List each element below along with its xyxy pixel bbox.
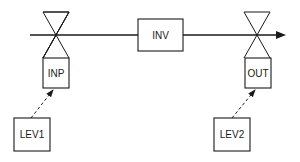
inp-label: INP — [48, 68, 65, 79]
inv-label: INV — [152, 30, 169, 41]
out-label: OUT — [247, 68, 268, 79]
lev2-label: LEV2 — [220, 129, 245, 140]
lev1-label: LEV1 — [20, 129, 45, 140]
inv-box[interactable]: INV — [138, 19, 183, 51]
lev2-to-out-signal — [232, 90, 255, 118]
flow-arrowhead-icon — [276, 31, 286, 39]
out-box[interactable]: OUT — [245, 58, 271, 88]
process-diagram: INP INV OUT LEV1 LEV2 — [0, 0, 300, 162]
lev2-box[interactable]: LEV2 — [214, 118, 250, 151]
inp-box[interactable]: INP — [43, 58, 69, 88]
lev1-to-inp-signal — [31, 90, 53, 118]
lev1-box[interactable]: LEV1 — [14, 118, 50, 151]
